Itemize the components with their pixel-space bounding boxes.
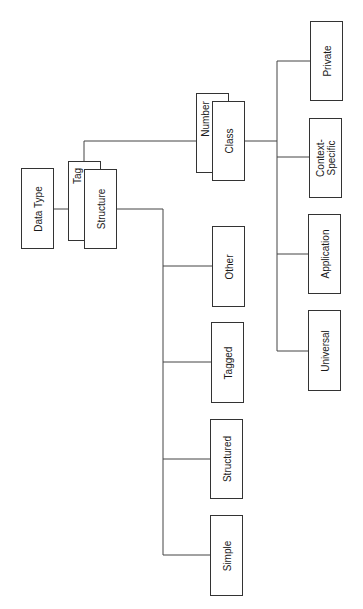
node-simple: Simple [210,515,243,596]
node-label: Tag [72,168,83,184]
node-label: Private [321,45,332,76]
node-universal: Universal [308,310,341,391]
node-label: Universal [319,330,330,372]
node-private: Private [310,21,343,101]
connector-lines [0,0,363,609]
node-label: Application [319,230,330,279]
node-label: Structure [95,189,106,230]
node-label: Other [223,254,234,279]
node-label: Context- Specific [315,139,337,177]
node-class: Class [212,101,245,181]
node-application: Application [308,214,341,294]
node-label: Class [223,128,234,153]
node-label: Data Type [32,186,43,231]
node-label: Simple [221,540,232,571]
node-context-specific: Context- Specific [309,118,342,198]
node-tagged: Tagged [211,322,244,403]
node-other: Other [212,226,245,307]
node-label: Tagged [222,346,233,379]
node-label: Structured [221,436,232,482]
node-structured: Structured [210,419,243,499]
node-label: Number [200,101,211,137]
node-data-type: Data Type [21,168,54,249]
node-structure: Structure [84,169,117,249]
